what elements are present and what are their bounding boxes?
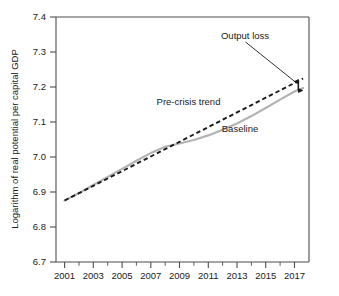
x-tick-label: 2003 (83, 270, 104, 281)
axis-frame (56, 17, 309, 262)
y-tick-label: 7.3 (33, 46, 46, 57)
chart-canvas: 6.7 6.8 6.9 7.0 7.1 7.2 7.3 7.4 (0, 0, 339, 296)
y-tick-label: 7.1 (33, 116, 46, 127)
x-tick-label: 2011 (198, 270, 218, 281)
y-tick-labels: 6.7 6.8 6.9 7.0 7.1 7.2 7.3 7.4 (33, 11, 46, 267)
annotation-baseline: Baseline (222, 123, 258, 134)
x-tick-label: 2005 (112, 270, 133, 281)
annotation-output-loss: Output loss (221, 30, 269, 41)
x-tick-label: 2007 (140, 270, 161, 281)
y-tick-label: 7.0 (33, 151, 46, 162)
output-loss-leader-line (246, 42, 298, 84)
x-axis-ticks (65, 262, 295, 268)
y-tick-label: 6.7 (33, 256, 46, 267)
y-tick-label: 6.9 (33, 186, 46, 197)
x-tick-label: 2001 (54, 270, 75, 281)
chart-figure: 6.7 6.8 6.9 7.0 7.1 7.2 7.3 7.4 (0, 0, 339, 296)
x-tick-label: 2009 (169, 270, 190, 281)
x-tick-label: 2015 (255, 270, 276, 281)
x-tick-label: 2017 (284, 270, 305, 281)
y-tick-label: 7.4 (33, 11, 46, 22)
y-tick-label: 6.8 (33, 221, 46, 232)
y-axis-ticks (50, 17, 56, 262)
annotation-pre-crisis-trend: Pre-crisis trend (157, 96, 221, 107)
y-axis-title: Logarithm of real potential per capital … (9, 49, 20, 229)
y-tick-label: 7.2 (33, 81, 46, 92)
x-tick-labels: 2001 2003 2005 2007 2009 2011 2013 2015 … (54, 270, 305, 281)
x-tick-label: 2013 (226, 270, 247, 281)
